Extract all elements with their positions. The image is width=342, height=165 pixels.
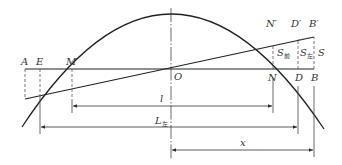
parabolic-arc	[22, 14, 324, 129]
label-N: N	[267, 72, 278, 83]
label-M: M	[65, 56, 77, 67]
label-L: L左	[154, 115, 168, 127]
label-O: O	[174, 71, 182, 82]
label-S-zuo: S左	[300, 47, 313, 59]
label-B-prime: B′	[308, 18, 319, 29]
label-x: x	[240, 137, 246, 148]
label-l: l	[160, 93, 163, 104]
label-B: B	[310, 72, 318, 83]
label-S: S	[318, 47, 325, 58]
diagram-canvas: A E M O N D B N′ D′ B′ S前 S左 S l L左 x	[0, 0, 342, 165]
label-D-prime: D′	[290, 18, 302, 29]
label-S-qian: S前	[277, 47, 290, 60]
label-N-prime: N′	[265, 18, 278, 29]
label-A: A	[20, 56, 28, 67]
label-D: D	[294, 72, 303, 83]
label-E: E	[35, 56, 44, 67]
